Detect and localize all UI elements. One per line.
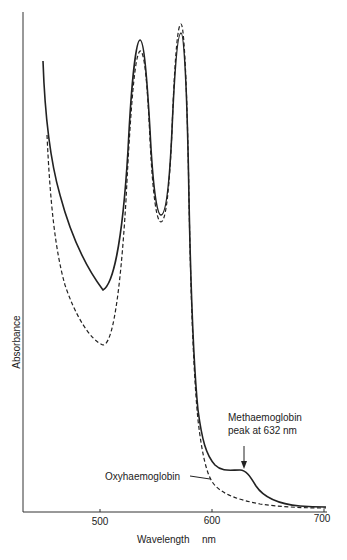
annotation-oxyhaemoglobin: Oxyhaemoglobin [105,471,180,482]
x-tick-label-600: 600 [204,515,221,526]
meth-arrow-head [241,461,247,469]
oxy-leader-line [190,476,210,479]
annotation-methaemoglobin-line2: peak at 632 nm [228,425,297,436]
x-axis-label: Wavelength [137,534,189,545]
x-tick-label-500: 500 [92,516,109,527]
absorbance-spectrum-chart: Absorbance 500 600 700 Wavelength nm Met… [0,0,347,560]
y-axis-label: Absorbance [11,315,22,369]
x-axis-unit: nm [202,534,216,545]
annotation-methaemoglobin-line1: Methaemoglobin [228,412,302,423]
x-tick-label-700: 700 [314,513,331,524]
